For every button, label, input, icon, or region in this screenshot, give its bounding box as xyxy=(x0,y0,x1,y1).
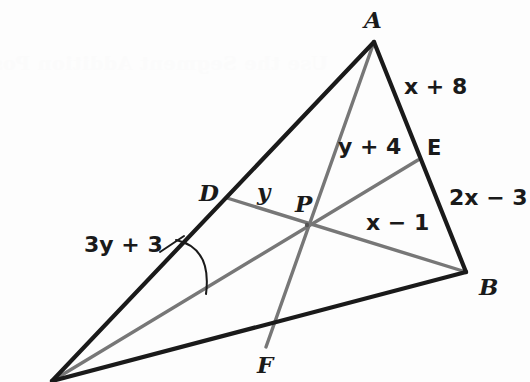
cevian-BD-line xyxy=(227,198,466,272)
point-P-marker xyxy=(305,223,309,227)
side-AC-line xyxy=(52,42,374,381)
point-label-F: F xyxy=(257,353,273,376)
segment-label-CD: 3y + 3 xyxy=(84,234,163,256)
point-markers-group xyxy=(305,223,309,227)
vertex-label-A: A xyxy=(364,8,382,31)
segment-label-DP: y xyxy=(257,180,270,203)
segment-label-AP: y + 4 xyxy=(338,136,401,158)
vertex-label-B: B xyxy=(479,275,498,298)
cevian-CE-line xyxy=(52,160,418,381)
point-label-P: P xyxy=(295,192,312,215)
segment-label-AE: x + 8 xyxy=(404,76,467,98)
segment-label-EB: 2x − 3 xyxy=(449,187,528,209)
figure-canvas: Use the Segment Addition Postulate A B xyxy=(0,0,530,382)
segment-label-PB: x − 1 xyxy=(366,212,429,234)
point-label-D: D xyxy=(199,181,219,204)
point-label-E: E xyxy=(427,138,441,159)
